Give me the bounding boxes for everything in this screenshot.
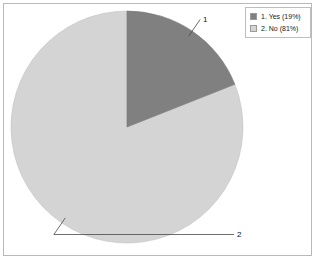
pie-callout-label-1: 1 bbox=[203, 15, 207, 24]
pie-callout-label-2: 2 bbox=[237, 230, 241, 239]
pie-chart-plot-area: 1 2 bbox=[0, 0, 317, 261]
chart-canvas: 1 2 1. Yes (19%) 2. No (81%) bbox=[0, 0, 317, 261]
legend-swatch-yes-icon bbox=[250, 13, 257, 20]
chart-legend: 1. Yes (19%) 2. No (81%) bbox=[245, 7, 311, 38]
legend-item-yes[interactable]: 1. Yes (19%) bbox=[250, 11, 307, 22]
legend-label-no: 2. No (81%) bbox=[261, 24, 298, 33]
legend-item-no[interactable]: 2. No (81%) bbox=[250, 23, 307, 34]
pie-chart-svg bbox=[0, 0, 317, 261]
legend-label-yes: 1. Yes (19%) bbox=[261, 12, 301, 21]
legend-swatch-no-icon bbox=[250, 25, 257, 32]
